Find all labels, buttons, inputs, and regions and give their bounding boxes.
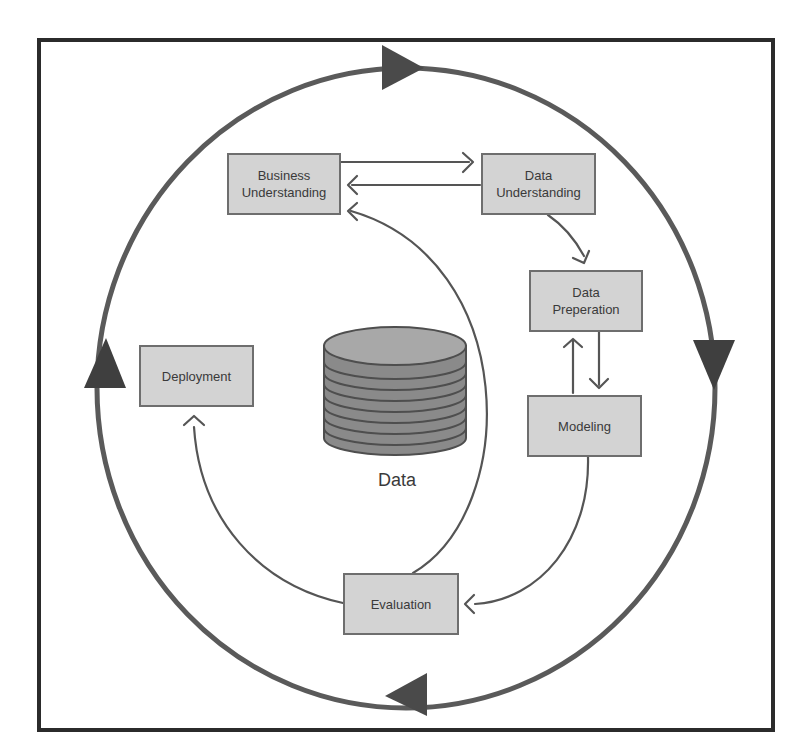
node-data-preparation[interactable]: Data Preperation <box>529 270 643 332</box>
edge-modeling-to-evaluation <box>475 457 588 604</box>
node-label: Data Preperation <box>552 284 619 318</box>
node-evaluation[interactable]: Evaluation <box>343 573 459 635</box>
node-label: Deployment <box>162 368 231 385</box>
arrowhead-icon <box>465 595 474 613</box>
edge-evaluation-to-deployment <box>194 427 343 603</box>
node-data-understanding[interactable]: Data Understanding <box>481 153 596 215</box>
cycle-arrow-left-icon <box>84 338 126 388</box>
node-business-understanding[interactable]: Business Understanding <box>227 153 341 215</box>
node-label: Evaluation <box>371 596 432 613</box>
cycle-arrow-top-icon <box>382 45 424 90</box>
node-label: Modeling <box>558 418 611 435</box>
database-cylinder-icon <box>324 327 466 455</box>
node-deployment[interactable]: Deployment <box>139 345 254 407</box>
cycle-arrow-right-icon <box>693 340 735 390</box>
arrowhead-icon <box>184 416 204 425</box>
diagram-graphics <box>0 0 806 753</box>
edge-data-understanding-to-preparation <box>548 215 584 256</box>
node-label: Business Understanding <box>242 167 327 201</box>
crisp-dm-diagram: Business Understanding Data Understandin… <box>0 0 806 753</box>
node-label: Data Understanding <box>496 167 581 201</box>
data-label: Data <box>357 470 437 491</box>
node-modeling[interactable]: Modeling <box>527 395 642 457</box>
